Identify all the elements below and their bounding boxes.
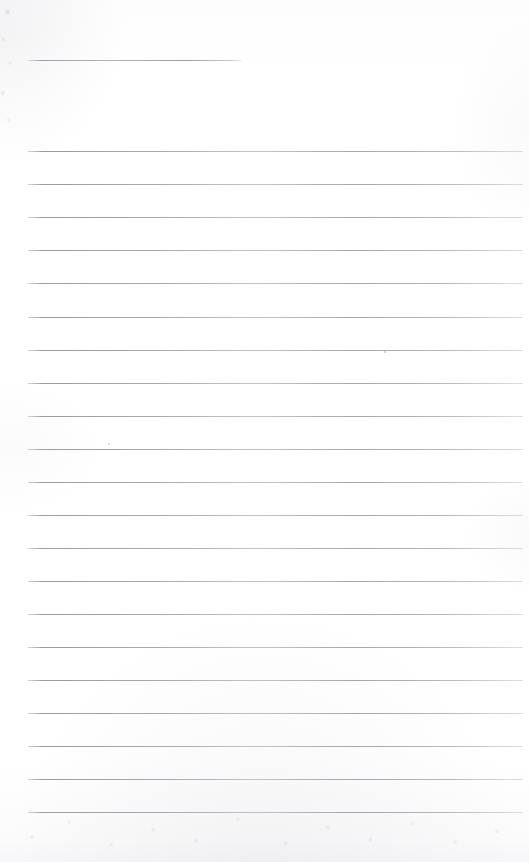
rule-2 xyxy=(28,184,523,185)
header-short-rule xyxy=(28,60,242,61)
rule-9 xyxy=(28,416,523,417)
rule-16 xyxy=(28,647,523,648)
rule-3 xyxy=(28,217,523,218)
rule-14 xyxy=(28,581,523,582)
rule-1 xyxy=(28,151,523,152)
rule-5 xyxy=(28,283,523,284)
rule-10 xyxy=(28,449,523,450)
rule-6 xyxy=(28,317,523,318)
rule-17 xyxy=(28,680,523,681)
rule-20 xyxy=(28,779,523,780)
rule-7 xyxy=(28,350,523,351)
rule-21 xyxy=(28,812,523,813)
ink-speck-upper-right xyxy=(384,351,386,353)
rule-8 xyxy=(28,383,523,384)
rule-19 xyxy=(28,746,523,747)
rule-12 xyxy=(28,515,523,516)
rule-13 xyxy=(28,548,523,549)
ink-speck-left-mid xyxy=(108,443,110,445)
ruled-lines-layer xyxy=(0,0,529,862)
rule-15 xyxy=(28,614,523,615)
rule-4 xyxy=(28,250,523,251)
scanned-page xyxy=(0,0,529,862)
rule-11 xyxy=(28,482,523,483)
rule-18 xyxy=(28,713,523,714)
